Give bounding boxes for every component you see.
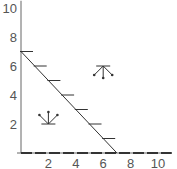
- arrow-shaft: [94, 66, 103, 75]
- x-tick-label: 8: [127, 156, 134, 169]
- arrow-shaft: [48, 115, 57, 124]
- y-tick-label: 6: [10, 59, 17, 74]
- y-tick-label: 4: [10, 88, 17, 103]
- direction-arrow-icons: [38, 66, 113, 124]
- arrow-tip: [56, 114, 59, 117]
- arrows-up-icon: [38, 111, 59, 124]
- arrow-tip: [38, 114, 41, 117]
- y-tick-label: 10: [3, 1, 17, 16]
- tick-labels: 246810246810: [3, 1, 166, 169]
- arrows-down-icon: [93, 66, 114, 79]
- x-tick-label: 2: [45, 156, 52, 169]
- arrow-tip: [111, 74, 114, 77]
- axes: [17, 1, 172, 153]
- arrow-tip: [93, 74, 96, 77]
- arrow-shaft: [103, 66, 112, 75]
- arrow-shaft: [39, 115, 48, 124]
- x-tick-label: 6: [100, 156, 107, 169]
- chart: 246810246810: [0, 0, 177, 169]
- x-tick-label: 10: [151, 156, 165, 169]
- y-tick-label: 2: [10, 117, 17, 132]
- x-tick-label: 4: [72, 156, 79, 169]
- arrow-tip: [47, 111, 50, 114]
- arrow-tip: [102, 77, 105, 80]
- plot-series: [20, 52, 172, 154]
- y-tick-label: 8: [10, 30, 17, 45]
